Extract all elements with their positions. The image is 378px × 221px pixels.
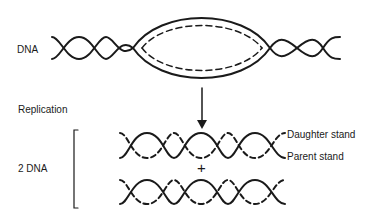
plus-sign: + [197,160,206,176]
parent-strand-label: Parent stand [287,151,344,163]
bracket [74,130,78,208]
two-dna-label: 2 DNA [18,163,47,175]
daughter-dna-1 [120,133,285,158]
replication-arrow [197,88,207,129]
parent-helix-right [270,37,340,59]
replication-bubble [133,18,270,78]
daughter-dna-2 [120,180,285,204]
daughter-strand-label: Daughter stand [287,129,355,141]
replication-label: Replication [18,104,67,116]
parent-helix-left [52,37,133,59]
dna-label: DNA [17,44,38,56]
